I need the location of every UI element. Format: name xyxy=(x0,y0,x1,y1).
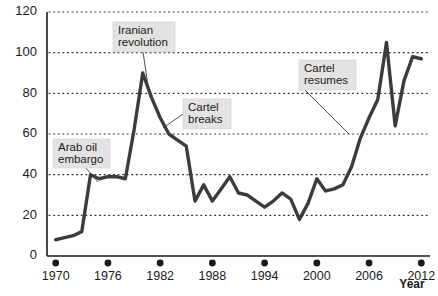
x-tick-label-1976: 1976 xyxy=(94,269,122,283)
y-tick-label-100: 100 xyxy=(15,44,37,59)
y-axis-labels-group: 020406080100120 xyxy=(15,3,37,262)
x-tick-dot-1970 xyxy=(52,260,59,267)
x-tick-label-1994: 1994 xyxy=(251,269,279,283)
x-tick-dot-2012 xyxy=(418,260,425,267)
x-tick-dot-1982 xyxy=(157,260,164,267)
annotation-label-arab-oil-embargo-line1: Arab oil xyxy=(58,141,97,153)
annotation-label-cartel-breaks-line1: Cartel xyxy=(188,101,219,113)
x-tick-label-2006: 2006 xyxy=(355,269,383,283)
annotation-leader-cartel-breaks xyxy=(163,114,183,128)
x-tick-dot-2000 xyxy=(313,260,320,267)
annotation-label-iranian-revolution-line2: revolution xyxy=(118,36,168,48)
x-tick-label-1988: 1988 xyxy=(198,269,226,283)
y-tick-label-40: 40 xyxy=(23,166,37,181)
x-tick-dot-2006 xyxy=(366,260,373,267)
y-tick-label-20: 20 xyxy=(23,207,37,222)
annotation-leader-cartel-resumes xyxy=(305,90,349,134)
annotation-label-iranian-revolution-line1: Iranian xyxy=(118,24,153,36)
x-axis-title: Year xyxy=(399,277,425,291)
y-tick-label-0: 0 xyxy=(30,247,37,262)
x-tick-label-1970: 1970 xyxy=(42,269,70,283)
annotations-group: Arab oilembargoIranianrevolutionCartelbr… xyxy=(53,22,356,182)
y-tick-label-120: 120 xyxy=(15,3,37,18)
annotation-label-cartel-breaks-line2: breaks xyxy=(188,113,223,125)
x-axis-ticks-group: 19701976198219881994200020062012 xyxy=(42,260,435,283)
crude-oil-price-line xyxy=(56,43,422,240)
oil-price-chart: 020406080100120 197019761982198819942000… xyxy=(0,0,438,296)
x-tick-label-2000: 2000 xyxy=(303,269,331,283)
chart-canvas: 020406080100120 197019761982198819942000… xyxy=(0,0,438,296)
y-tick-label-60: 60 xyxy=(23,125,37,140)
annotation-label-cartel-resumes-line2: resumes xyxy=(304,74,348,86)
x-tick-dot-1988 xyxy=(209,260,216,267)
y-tick-label-80: 80 xyxy=(23,85,37,100)
x-tick-dot-1994 xyxy=(261,260,268,267)
x-tick-label-1982: 1982 xyxy=(146,269,174,283)
annotation-label-arab-oil-embargo-line2: embargo xyxy=(58,153,103,165)
annotation-label-cartel-resumes-line1: Cartel xyxy=(304,62,335,74)
x-tick-dot-1976 xyxy=(105,260,112,267)
